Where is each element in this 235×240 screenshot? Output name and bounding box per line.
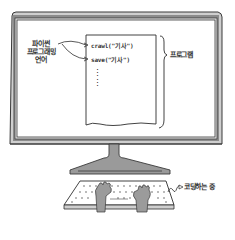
ellipsis-continued: ⋮ [93, 78, 102, 88]
keyboard [64, 181, 174, 209]
code-line-save: save("기사") [91, 56, 130, 63]
program-label: 프로그램 [170, 51, 193, 59]
label-line-1: 파이썬 [22, 40, 60, 48]
label-line-3: 언어 [22, 56, 60, 64]
code-line-crawl: crawl("기사") [91, 42, 133, 49]
monitor-stand [70, 144, 170, 174]
coding-status-label: 코딩하는 중 [184, 183, 215, 191]
pointer-arrow-icon [168, 185, 183, 192]
label-line-2: 프로그래밍 [22, 48, 60, 56]
python-language-label: 파이썬 프로그래밍 언어 [22, 40, 60, 64]
ellipsis: ⋮ [93, 68, 102, 78]
